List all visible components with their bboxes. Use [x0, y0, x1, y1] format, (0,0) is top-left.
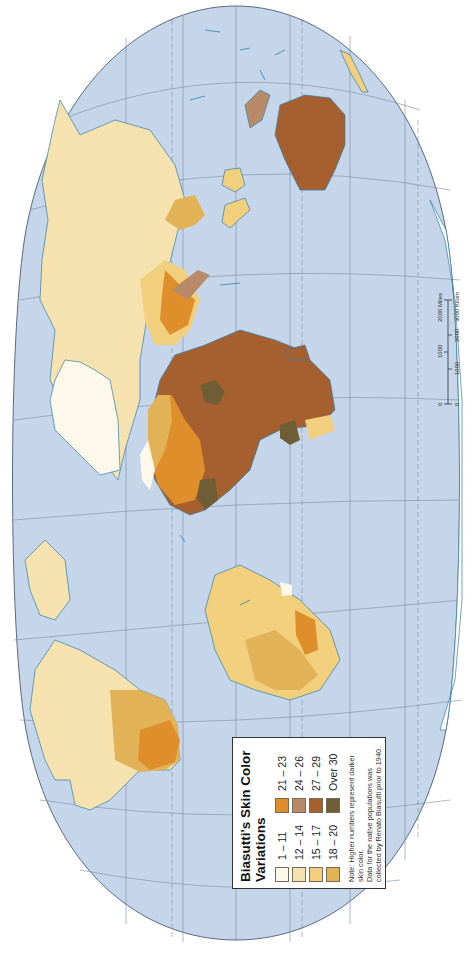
- legend-swatch: [326, 867, 340, 882]
- legend-swatch: [275, 867, 289, 882]
- legend-label: 21 – 23: [276, 756, 288, 791]
- scale-km-1000: 1000: [454, 361, 460, 375]
- legend-item: Over 30: [326, 744, 340, 813]
- legend-note-line2: Data for the native populations was coll…: [365, 744, 383, 882]
- legend-item: 18 – 20: [326, 813, 340, 882]
- legend-note: Note: Higher numbers represent darker sk…: [347, 744, 383, 882]
- scale-miles-0: 0: [437, 402, 443, 406]
- legend-item: 1 – 11: [275, 813, 289, 882]
- legend-swatch: [275, 798, 289, 813]
- legend-container: Biasutti's Skin Color Variations 1 – 11 …: [232, 737, 386, 889]
- legend-classes: 1 – 11 21 – 23 12 – 14 24 – 26 15 – 17 2…: [275, 744, 340, 882]
- scale-bar: 0 1000 2000 Miles 0 1000 2000 3000 Kilom…: [404, 292, 464, 412]
- legend-title-line2: Variations: [253, 744, 268, 882]
- legend-label: 12 – 14: [293, 825, 305, 860]
- scale-km-0: 0: [454, 402, 460, 406]
- legend-title: Biasutti's Skin Color Variations: [238, 744, 268, 882]
- legend-swatch: [309, 798, 323, 813]
- scale-km-2000: 2000: [454, 328, 460, 342]
- scale-miles-1000: 1000: [437, 344, 443, 358]
- legend: Biasutti's Skin Color Variations 1 – 11 …: [232, 737, 386, 889]
- scale-km-3000: 3000 Kilometers: [454, 292, 460, 322]
- legend-item: 15 – 17: [309, 813, 323, 882]
- legend-label: 1 – 11: [276, 832, 288, 860]
- legend-item: 24 – 26: [292, 744, 306, 813]
- legend-swatch: [309, 867, 323, 882]
- legend-label: 27 – 29: [310, 756, 322, 791]
- legend-label: Over 30: [327, 754, 339, 791]
- legend-item: 21 – 23: [275, 744, 289, 813]
- legend-note-line1: Note: Higher numbers represent darker sk…: [347, 744, 365, 882]
- legend-label: 18 – 20: [327, 825, 339, 860]
- legend-item: 12 – 14: [292, 813, 306, 882]
- legend-swatch: [292, 798, 306, 813]
- legend-label: 24 – 26: [293, 756, 305, 791]
- legend-swatch: [326, 798, 340, 813]
- legend-title-line1: Biasutti's Skin Color: [238, 744, 253, 882]
- scale-miles-2000: 2000 Miles: [437, 293, 443, 322]
- legend-label: 15 – 17: [310, 825, 322, 860]
- legend-swatch: [292, 867, 306, 882]
- legend-item: 27 – 29: [309, 744, 323, 813]
